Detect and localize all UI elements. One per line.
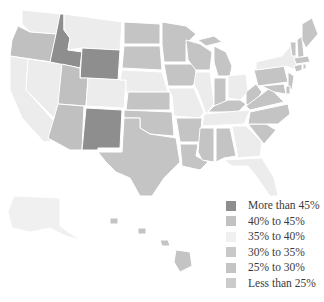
state-rhode-island[interactable] bbox=[303, 64, 306, 69]
state-hawaii-maui[interactable] bbox=[160, 240, 170, 246]
legend-item: More than 45% bbox=[226, 198, 320, 214]
state-nebraska[interactable] bbox=[120, 70, 168, 92]
state-florida[interactable] bbox=[224, 158, 278, 196]
state-kansas[interactable] bbox=[126, 92, 170, 110]
legend-item: 30% to 35% bbox=[226, 245, 320, 261]
legend-label: 30% to 35% bbox=[248, 247, 305, 259]
state-north-dakota[interactable] bbox=[124, 22, 160, 44]
legend-label: 40% to 45% bbox=[248, 216, 305, 228]
legend-item: 35% to 40% bbox=[226, 229, 320, 245]
state-maine[interactable] bbox=[302, 18, 318, 48]
legend-swatch bbox=[226, 247, 236, 257]
legend-swatch bbox=[226, 263, 236, 273]
state-colorado[interactable] bbox=[86, 78, 126, 108]
state-ohio[interactable] bbox=[228, 74, 248, 100]
state-alaska[interactable] bbox=[8, 196, 80, 240]
state-mississippi[interactable] bbox=[198, 128, 214, 162]
legend-label: 25% to 30% bbox=[248, 262, 305, 274]
legend-swatch bbox=[226, 216, 236, 226]
state-south-dakota[interactable] bbox=[122, 46, 162, 70]
state-hawaii-big-island[interactable] bbox=[174, 250, 192, 272]
legend-label: Less than 25% bbox=[248, 278, 316, 290]
legend-item: Less than 25% bbox=[226, 276, 320, 292]
state-new-mexico[interactable] bbox=[82, 108, 122, 150]
legend-swatch bbox=[226, 232, 236, 242]
legend-swatch bbox=[226, 278, 236, 288]
legend-label: 35% to 40% bbox=[248, 231, 305, 243]
legend-item: 40% to 45% bbox=[226, 214, 320, 230]
legend-swatch bbox=[226, 201, 236, 211]
state-massachusetts[interactable] bbox=[294, 56, 310, 64]
state-delaware[interactable] bbox=[286, 86, 290, 94]
state-hawaii-oahu[interactable] bbox=[138, 228, 146, 234]
state-arkansas[interactable] bbox=[176, 118, 202, 142]
legend-label: More than 45% bbox=[248, 200, 320, 212]
state-connecticut[interactable] bbox=[294, 64, 302, 72]
state-iowa[interactable] bbox=[164, 64, 198, 86]
state-wyoming[interactable] bbox=[80, 48, 120, 80]
legend: More than 45% 40% to 45% 35% to 40% 30% … bbox=[226, 198, 320, 291]
legend-item: 25% to 30% bbox=[226, 260, 320, 276]
state-hawaii-kauai[interactable] bbox=[110, 218, 118, 224]
state-montana[interactable] bbox=[64, 14, 122, 50]
